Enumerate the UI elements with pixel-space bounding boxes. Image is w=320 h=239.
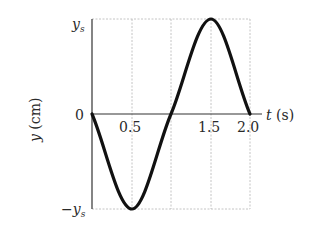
x-tick-2-0: 2.0	[237, 119, 259, 135]
x-tick-0-5: 0.5	[119, 119, 141, 135]
x-axis-label: t (s)	[266, 107, 294, 123]
y-tick-bottom: −ys	[61, 201, 86, 219]
y-tick-zero: 0	[75, 107, 84, 123]
wave-chart: ys 0 −ys 0.5 1.5 2.0 t (s) y (cm)	[0, 0, 320, 239]
x-tick-1-5: 1.5	[198, 119, 220, 135]
y-axis-label: y (cm)	[27, 98, 43, 143]
y-tick-top: ys	[71, 16, 85, 34]
